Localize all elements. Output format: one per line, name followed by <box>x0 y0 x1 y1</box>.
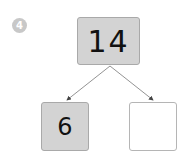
part-left-box: 6 <box>41 102 89 151</box>
whole-box: 14 <box>77 17 140 65</box>
part-left-value: 6 <box>57 113 72 141</box>
part-right-answer-box[interactable] <box>129 102 177 151</box>
arrow-right <box>110 66 153 100</box>
arrow-left <box>67 66 110 100</box>
whole-value: 14 <box>87 24 129 59</box>
